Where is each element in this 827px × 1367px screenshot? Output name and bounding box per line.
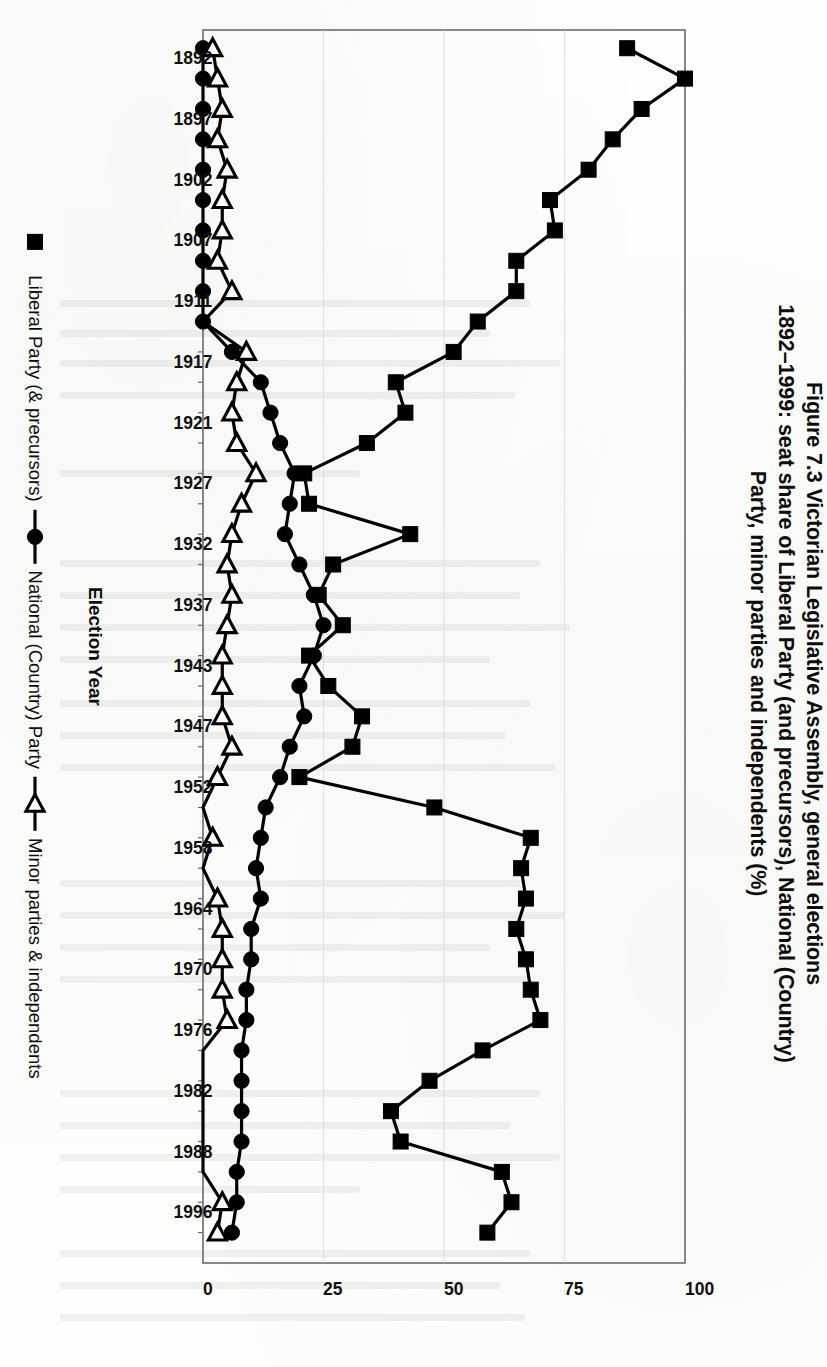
legend-entry-1: Liberal Party (& precursors) — [22, 212, 48, 503]
x-tick-label-1976: 1976 — [174, 1020, 213, 1041]
legend-entry-3: Minor parties & independents — [22, 775, 48, 1081]
x-tick-label-1943: 1943 — [174, 656, 213, 677]
x-tick-label-1970: 1970 — [174, 959, 213, 980]
x-tick-label-1947: 1947 — [174, 716, 213, 737]
x-tick-label-1911: 1911 — [174, 291, 212, 312]
legend-entry-2: National (Country) Party — [22, 508, 48, 771]
x-tick-label-1982: 1982 — [174, 1081, 213, 1102]
x-tick-label-1937: 1937 — [174, 595, 213, 616]
plot-frame — [198, 30, 685, 1263]
y-tick-label-100: 100 — [685, 1279, 714, 1300]
legend-marker-open-triangle-left — [22, 775, 48, 833]
x-tick-label-1927: 1927 — [174, 473, 213, 494]
x-tick-label-1952: 1952 — [174, 777, 213, 798]
x-axis-title: Election Year — [84, 587, 106, 706]
x-tick-label-1988: 1988 — [174, 1142, 213, 1163]
legend-marker-filled-circle — [22, 508, 48, 566]
x-tick-label-1958: 1958 — [174, 838, 213, 859]
line-chart — [0, 0, 827, 1367]
x-tick-label-1892: 1892 — [174, 48, 213, 69]
x-tick-label-1902: 1902 — [174, 170, 213, 191]
x-tick-label-1921: 1921 — [174, 413, 213, 434]
x-tick-label-1917: 1917 — [174, 352, 213, 373]
legend-marker-filled-square — [22, 212, 48, 270]
x-tick-label-1897: 1897 — [174, 109, 213, 130]
y-tick-label-25: 25 — [324, 1279, 343, 1300]
y-tick-label-50: 50 — [444, 1279, 463, 1300]
y-tick-label-75: 75 — [565, 1279, 584, 1300]
rotated-figure-stage: Figure 7.3 Victorian Legislative Assembl… — [0, 0, 827, 1367]
legend-label-1: Liberal Party (& precursors) — [24, 273, 46, 503]
x-tick-label-1907: 1907 — [174, 230, 213, 251]
chart-legend: Liberal Party (& precursors)National (Co… — [22, 212, 48, 1080]
x-tick-label-1964: 1964 — [174, 899, 213, 920]
x-tick-label-1996: 1996 — [174, 1202, 213, 1223]
x-tick-label-1932: 1932 — [174, 534, 213, 555]
y-tick-label-0: 0 — [203, 1279, 213, 1300]
legend-label-3: Minor parties & independents — [24, 836, 46, 1081]
legend-label-2: National (Country) Party — [24, 569, 46, 771]
